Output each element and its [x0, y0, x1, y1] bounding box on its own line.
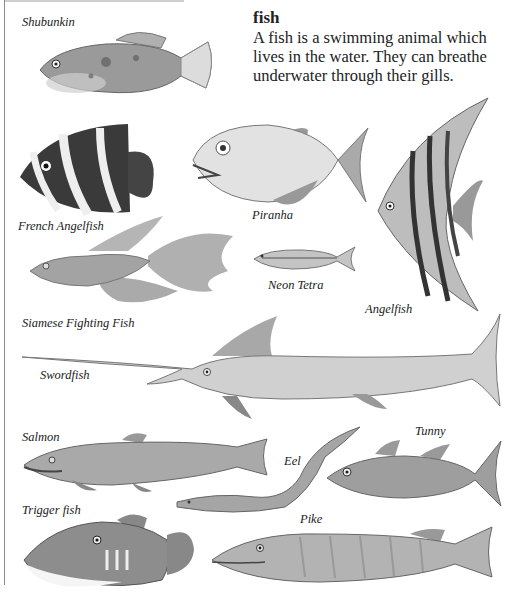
label-swordfish: Swordfish — [40, 368, 90, 383]
french-angelfish-illustration — [18, 122, 158, 217]
pike-illustration — [210, 522, 495, 587]
piranha-illustration — [188, 120, 373, 210]
neon-tetra-illustration — [252, 243, 357, 275]
siamese-fighting-fish-illustration — [28, 216, 238, 311]
entry-headword: fish — [253, 8, 515, 28]
shubunkin-illustration — [36, 28, 216, 103]
entry-definition: A fish is a swimming animal which lives … — [253, 28, 515, 85]
dictionary-page: fish A fish is a swimming animal which l… — [0, 0, 515, 593]
trigger-fish-illustration — [22, 510, 197, 590]
tunny-illustration — [325, 436, 505, 511]
swordfish-illustration — [22, 314, 502, 424]
label-neon-tetra: Neon Tetra — [268, 278, 323, 293]
label-eel: Eel — [284, 454, 301, 469]
label-piranha: Piranha — [252, 208, 293, 223]
page-border-top — [4, 0, 184, 2]
page-border-left — [4, 0, 5, 585]
dictionary-entry: fish A fish is a swimming animal which l… — [253, 8, 515, 85]
angelfish-illustration — [368, 96, 493, 316]
